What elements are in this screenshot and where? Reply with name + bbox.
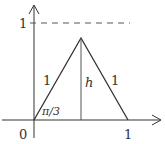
right-side-label: 1 [111,73,119,88]
y-tick-label: 1 [19,16,27,31]
height-label: h [85,75,93,90]
left-side-label: 1 [43,73,51,88]
x-tick-label: 1 [124,127,132,142]
angle-label: π/3 [41,105,60,118]
diagram-canvas: 1 0 1 1 1 h π/3 [0,0,165,144]
origin-label: 0 [19,127,27,142]
